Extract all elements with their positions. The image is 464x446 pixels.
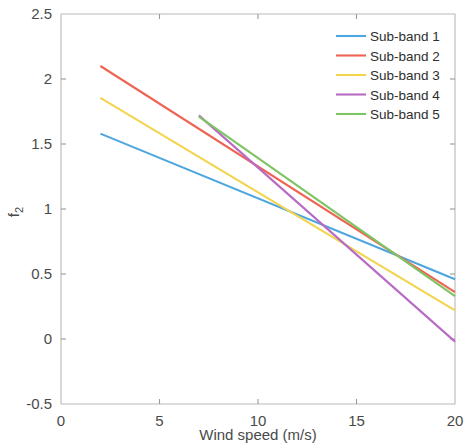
y-tick-label: 0.5 (31, 265, 52, 282)
x-tick-label: 0 (57, 412, 65, 429)
y-tick-label: 2 (44, 70, 52, 87)
y-tick-label: 2.5 (31, 5, 52, 22)
y-tick-label: 1.5 (31, 135, 52, 152)
legend: Sub-band 1Sub-band 2Sub-band 3Sub-band 4… (336, 29, 440, 122)
legend-label-4: Sub-band 4 (370, 88, 440, 103)
series-line-3 (100, 98, 455, 311)
y-tick-label: 1 (44, 200, 52, 217)
y-axis-tick-labels: -0.500.511.522.5 (26, 5, 52, 412)
series-line-5 (199, 117, 455, 296)
y-axis-label-text: f2 (5, 207, 25, 217)
x-axis-ticks (160, 14, 357, 404)
y-axis-label: f2 (5, 207, 25, 217)
x-tick-label: 20 (447, 412, 464, 429)
y-tick-label: 0 (44, 330, 52, 347)
x-axis-label: Wind speed (m/s) (199, 426, 317, 443)
y-axis-label-subscript: 2 (13, 207, 25, 213)
legend-label-3: Sub-band 3 (370, 68, 440, 83)
y-tick-label: -0.5 (26, 395, 52, 412)
legend-label-2: Sub-band 2 (370, 49, 440, 64)
series-line-4 (199, 115, 455, 341)
legend-label-5: Sub-band 5 (370, 107, 440, 122)
chart-figure: 05101520 -0.500.511.522.5 Wind speed (m/… (0, 0, 464, 446)
x-tick-label: 5 (155, 412, 163, 429)
legend-label-1: Sub-band 1 (370, 29, 440, 44)
line-chart: 05101520 -0.500.511.522.5 Wind speed (m/… (0, 0, 464, 446)
x-tick-label: 15 (348, 412, 365, 429)
